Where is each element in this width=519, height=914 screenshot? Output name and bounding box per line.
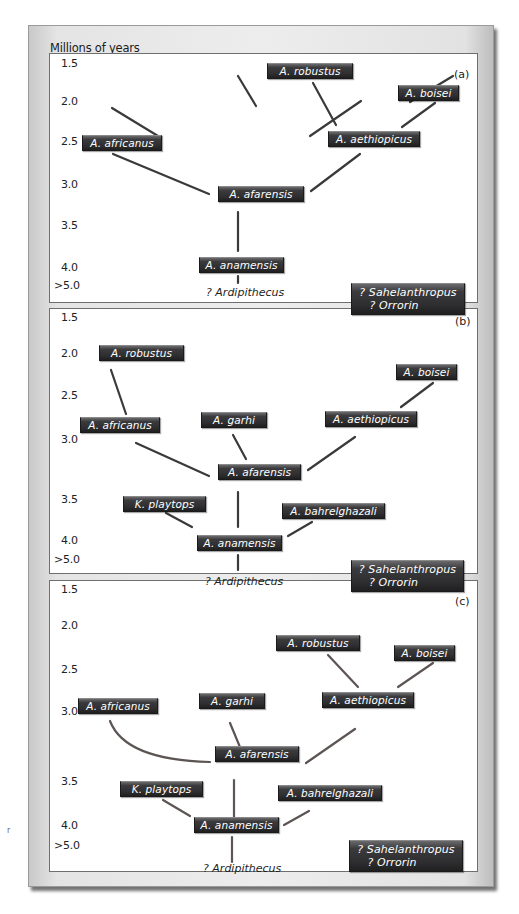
tick-1-5: 1.5: [61, 57, 78, 70]
node-c-playtops: K. playtops: [120, 781, 203, 797]
node-b-afarensis: A. afarensis: [218, 464, 301, 480]
tick-1-5: 1.5: [61, 583, 78, 596]
node-c-sahelanthropus-orrorin: ? Sahelanthropus ? Orrorin: [349, 840, 463, 872]
tick-2-0: 2.0: [61, 95, 78, 108]
node-a-robustus: A. robustus: [267, 63, 353, 79]
node-b-robustus: A. robustus: [99, 345, 184, 361]
node-c-anamensis: A. anamensis: [194, 817, 279, 833]
node-b-playtops: K. playtops: [123, 496, 206, 512]
node-b-anamensis: A. anamensis: [197, 535, 282, 551]
tick-3-0: 3.0: [61, 178, 78, 191]
node-b-aethiopicus: A. aethiopicus: [325, 411, 417, 427]
tick-3-5: 3.5: [61, 775, 78, 788]
node-c-ardipithecus: ? Ardipithecus: [203, 862, 281, 875]
node-a-aethiopicus: A. aethiopicus: [328, 131, 420, 147]
tick-2-5: 2.5: [61, 389, 78, 402]
orrorin-label: ? Orrorin: [324, 576, 463, 589]
side-mark: r: [7, 826, 10, 835]
node-a-boisei: A. boisei: [398, 85, 459, 101]
tick-2-0: 2.0: [61, 619, 78, 632]
tick-4-0: 4.0: [61, 534, 78, 547]
tick-2-0: 2.0: [61, 347, 78, 360]
node-b-africanus: A. africanus: [80, 417, 160, 433]
node-c-robustus: A. robustus: [276, 635, 360, 651]
sahelanthropus-label: ? Sahelanthropus: [350, 843, 462, 856]
tick-gt-5-0: >5.0: [54, 839, 80, 852]
tick-3-0: 3.0: [61, 705, 78, 718]
node-b-ardipithecus: ? Ardipithecus: [205, 575, 283, 588]
tick-2-5: 2.5: [61, 663, 78, 676]
tick-3-5: 3.5: [61, 219, 78, 232]
node-b-bahrelghazali: A. bahrelghazali: [282, 503, 385, 519]
tick-gt-5-0: >5.0: [54, 279, 80, 292]
tick-3-5: 3.5: [61, 493, 78, 506]
node-b-garhi: A. garhi: [201, 412, 267, 428]
orrorin-label: ? Orrorin: [322, 856, 462, 869]
node-c-boisei: A. boisei: [394, 645, 455, 661]
panel-tag-c: (c): [455, 595, 470, 608]
node-b-sahelanthropus-orrorin: ? Sahelanthropus ? Orrorin: [351, 560, 464, 592]
node-c-africanus: A. africanus: [78, 698, 158, 714]
node-a-afarensis: A. afarensis: [218, 186, 304, 202]
node-c-aethiopicus: A. aethiopicus: [322, 692, 414, 708]
panel-tag-a: (a): [454, 68, 469, 81]
node-c-bahrelghazali: A. bahrelghazali: [278, 785, 382, 801]
node-c-garhi: A. garhi: [199, 693, 265, 709]
tick-4-0: 4.0: [61, 819, 78, 832]
sahelanthropus-label: ? Sahelanthropus: [352, 286, 464, 299]
tick-4-0: 4.0: [61, 261, 78, 274]
node-a-anamensis: A. anamensis: [199, 257, 284, 273]
tick-1-5: 1.5: [61, 311, 78, 324]
node-b-boisei: A. boisei: [396, 364, 457, 380]
node-a-ardipithecus: ? Ardipithecus: [206, 286, 284, 299]
node-a-africanus: A. africanus: [82, 135, 162, 151]
tick-3-0: 3.0: [61, 433, 78, 446]
sahelanthropus-label: ? Sahelanthropus: [352, 563, 463, 576]
panel-tag-b: (b): [455, 315, 471, 328]
node-c-afarensis: A. afarensis: [215, 746, 299, 762]
orrorin-label: ? Orrorin: [324, 299, 464, 312]
tick-gt-5-0: >5.0: [54, 553, 80, 566]
tick-2-5: 2.5: [61, 135, 78, 148]
node-a-sahelanthropus-orrorin: ? Sahelanthropus ? Orrorin: [351, 283, 465, 315]
